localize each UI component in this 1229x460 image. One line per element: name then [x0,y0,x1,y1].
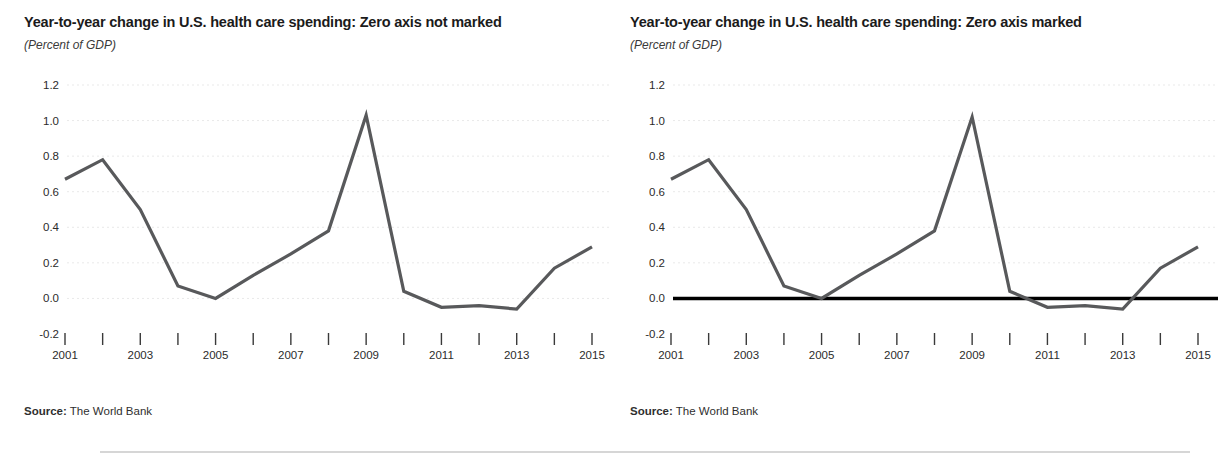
source-label: Source: [24,405,67,417]
x-axis-tick-label: 2015 [1185,349,1211,361]
x-axis-tick-label: 2011 [429,349,454,361]
plot-area-left: 1.21.00.80.60.40.20.0-0.2200120032005200… [24,55,614,385]
y-axis-tick-label: 0.2 [649,257,665,269]
x-axis-tick-label: 2003 [127,349,153,361]
source-note-right: Source: The World Bank [630,405,758,417]
y-axis-tick-label: 0.6 [43,186,59,198]
y-axis-tick-label: 0.0 [43,292,59,304]
x-axis-tick-label: 2009 [959,349,985,361]
x-axis-tick-label: 2013 [1110,349,1136,361]
y-axis-tick-label: 0.4 [649,221,666,233]
page-title-right: Year-to-year change in U.S. health care … [630,14,1082,30]
y-axis-tick-label: 1.2 [43,79,59,91]
y-axis-tick-label: 0.8 [649,150,665,162]
x-axis-tick-label: 2001 [52,349,78,361]
y-axis-tick-label: 1.2 [649,79,665,91]
y-axis-tick-label: 0.6 [649,186,665,198]
x-axis-tick-label: 2007 [884,349,910,361]
chart-panel-left: Year-to-year change in U.S. health care … [24,0,624,440]
x-axis-tick-label: 2005 [809,349,835,361]
x-axis-tick-label: 2009 [353,349,379,361]
source-value: The World Bank [70,405,152,417]
figure-container: Year-to-year change in U.S. health care … [0,0,1229,460]
chart-subtitle-right: (Percent of GDP) [630,38,722,52]
x-axis-tick-label: 2015 [579,349,605,361]
y-axis-tick-label: 0.0 [649,292,665,304]
y-axis-tick-label: -0.2 [645,328,665,340]
plot-area-right: 1.21.00.80.60.40.20.0-0.2200120032005200… [630,55,1220,385]
x-axis-tick-label: 2011 [1035,349,1060,361]
data-series-line [65,115,592,309]
footer-divider [100,451,1190,453]
page-title: Year-to-year change in U.S. health care … [24,14,502,30]
y-axis-tick-label: 0.2 [43,257,59,269]
y-axis-tick-label: 1.0 [43,115,59,127]
chart-subtitle: (Percent of GDP) [24,38,116,52]
x-axis-tick-label: 2003 [733,349,759,361]
y-axis-tick-label: 1.0 [649,115,665,127]
source-note-left: Source: The World Bank [24,405,152,417]
x-axis-tick-label: 2013 [504,349,530,361]
line-chart-left: 1.21.00.80.60.40.20.0-0.2200120032005200… [24,55,614,385]
data-series-line [671,117,1198,309]
source-value-right: The World Bank [676,405,758,417]
y-axis-tick-label: -0.2 [39,328,59,340]
source-label-right: Source: [630,405,673,417]
x-axis-tick-label: 2001 [658,349,684,361]
x-axis-tick-label: 2007 [278,349,304,361]
y-axis-tick-label: 0.4 [43,221,60,233]
chart-panel-right: Year-to-year change in U.S. health care … [630,0,1229,440]
y-axis-tick-label: 0.8 [43,150,59,162]
x-axis-tick-label: 2005 [203,349,229,361]
line-chart-right: 1.21.00.80.60.40.20.0-0.2200120032005200… [630,55,1220,385]
